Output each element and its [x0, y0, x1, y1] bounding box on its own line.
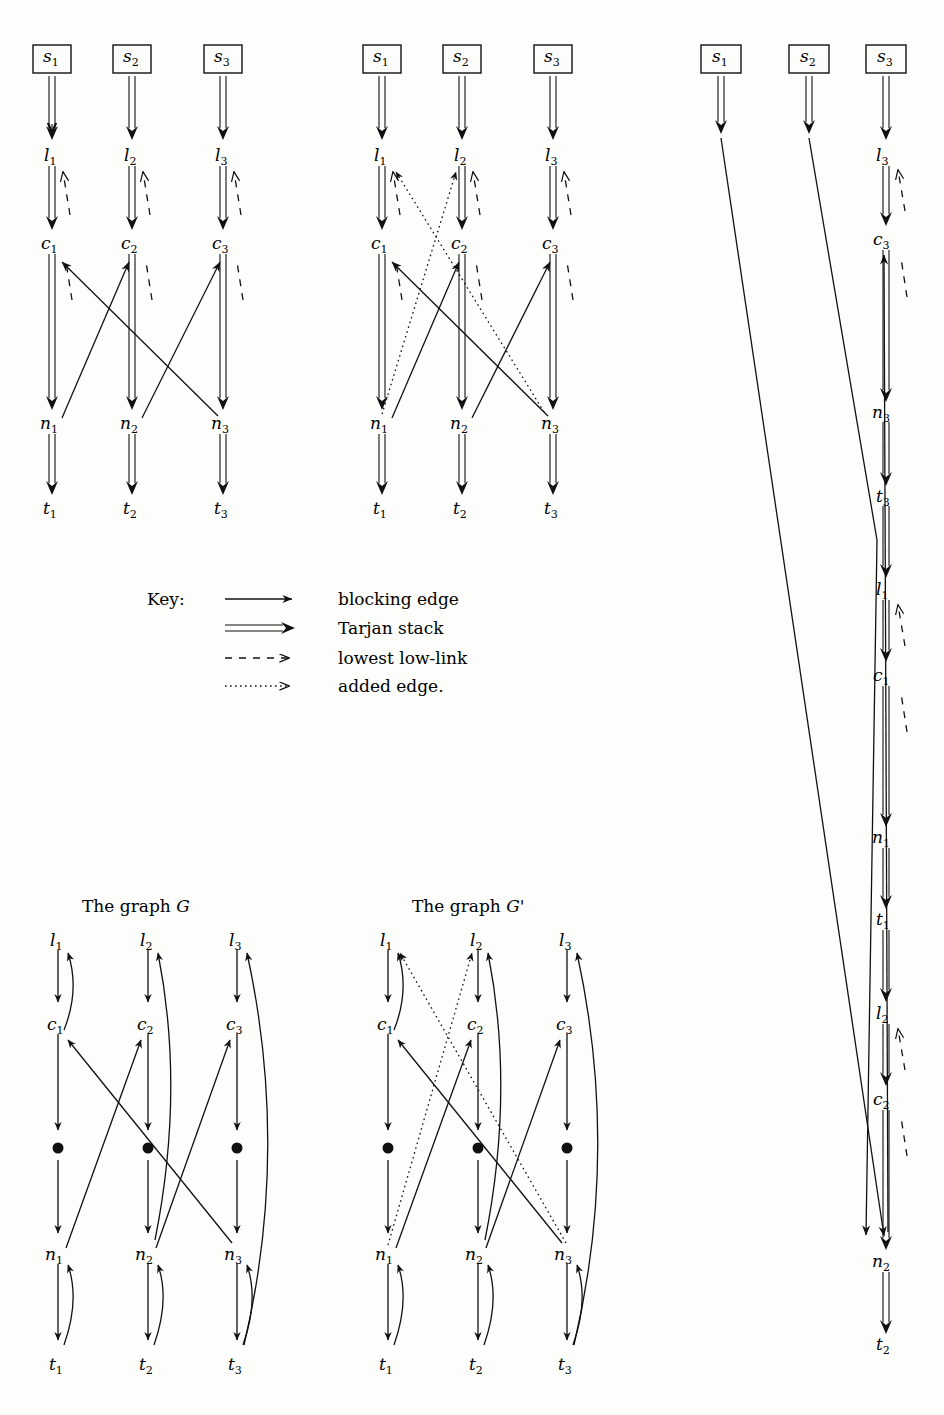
figure-canvas: s1 s2 s3 l1 l2 l3 c1 c2 c3 n1 n2 n3 t1 t… — [0, 0, 944, 1415]
node-label-l1: l1 — [380, 930, 392, 953]
node-label-n1: n1 — [375, 1244, 393, 1267]
node-label-c2: c2 — [451, 233, 468, 256]
node-label-l2: l2 — [124, 145, 136, 168]
inner-node-dot-1 — [383, 1143, 394, 1154]
panel-title-graph-G-prime: The graph G' — [412, 896, 524, 916]
node-label-n3: n3 — [541, 413, 559, 436]
node-label-c1: c1 — [371, 233, 388, 256]
node-label-l3: l3 — [559, 930, 571, 953]
node-label-t3: t3 — [544, 498, 558, 521]
node-label-t3: t3 — [228, 1354, 242, 1377]
node-label-n2: n2 — [465, 1244, 483, 1267]
key-text-blocking-edge: blocking edge — [338, 589, 459, 609]
node-label-l1: l1 — [50, 930, 62, 953]
panel-top-middle: s1 s2 s3 l1 l2 l3 c1 c2 c3 n1 n2 n3 t1 t… — [363, 45, 573, 521]
node-label-t3: t3 — [876, 486, 890, 509]
long-blocking-edges — [721, 138, 888, 1236]
node-label-t1: t1 — [379, 1354, 393, 1377]
node-label-t1: t1 — [876, 909, 890, 932]
inner-node-dot-2 — [143, 1143, 154, 1154]
node-label-c3: c3 — [226, 1014, 243, 1037]
node-label-s2: s2 — [800, 46, 816, 69]
node-label-l1: l1 — [374, 145, 386, 168]
key-swatch-tarjan-stack — [225, 622, 295, 634]
panel-right-column: s1 s2 s3 — [701, 45, 907, 1357]
key-label: Key: — [147, 589, 185, 609]
node-label-n3: n3 — [211, 413, 229, 436]
added-edges — [382, 172, 544, 414]
inner-node-dot-3 — [232, 1143, 243, 1154]
node-label-n3: n3 — [872, 402, 890, 425]
panel-title-graph-G: The graph G — [82, 896, 190, 916]
node-label-t2: t2 — [453, 498, 467, 521]
node-label-s1: s1 — [43, 46, 59, 69]
node-label-t2: t2 — [876, 1334, 890, 1357]
node-label-t2: t2 — [469, 1354, 483, 1377]
node-label-s1: s1 — [712, 46, 728, 69]
node-label-s3: s3 — [214, 46, 230, 69]
key-legend: Key: blocking edge Tarjan stack lowest l… — [147, 589, 468, 696]
node-label-c3: c3 — [542, 233, 559, 256]
node-label-l3: l3 — [876, 145, 888, 168]
node-label-c1: c1 — [47, 1014, 64, 1037]
node-label-n2: n2 — [120, 413, 138, 436]
node-label-s3: s3 — [877, 46, 893, 69]
node-label-l2: l2 — [140, 930, 152, 953]
node-label-c3: c3 — [212, 233, 229, 256]
panel-graph-G-prime: The graph G' — [375, 896, 598, 1377]
node-label-s2: s2 — [123, 46, 139, 69]
node-label-s3: s3 — [544, 46, 560, 69]
node-label-c2: c2 — [137, 1014, 154, 1037]
node-label-t3: t3 — [214, 498, 228, 521]
node-label-t2: t2 — [139, 1354, 153, 1377]
node-label-n1: n1 — [370, 413, 388, 436]
blocking-edges — [62, 262, 220, 418]
node-label-t1: t1 — [49, 1354, 63, 1377]
node-label-t1: t1 — [43, 498, 57, 521]
node-label-t3: t3 — [558, 1354, 572, 1377]
chain-lowlink-edges — [898, 170, 907, 1156]
node-label-l3: l3 — [545, 145, 557, 168]
inner-node-dot-3 — [562, 1143, 573, 1154]
node-label-n2: n2 — [135, 1244, 153, 1267]
panel-top-left: s1 s2 s3 l1 l2 l3 c1 c2 c3 n1 n2 n3 t1 t… — [33, 45, 243, 521]
node-label-c1: c1 — [873, 665, 890, 688]
node-label-s2: s2 — [453, 46, 469, 69]
node-label-c3: c3 — [873, 229, 890, 252]
key-text-tarjan-stack: Tarjan stack — [338, 618, 444, 638]
node-label-c3: c3 — [556, 1014, 573, 1037]
inner-node-dot-2 — [473, 1143, 484, 1154]
node-label-n1: n1 — [872, 827, 890, 850]
inner-node-dot-1 — [53, 1143, 64, 1154]
node-label-c2: c2 — [467, 1014, 484, 1037]
node-label-c2: c2 — [121, 233, 138, 256]
node-label-l2: l2 — [454, 145, 466, 168]
node-label-n2: n2 — [872, 1251, 890, 1274]
node-label-l3: l3 — [215, 145, 227, 168]
node-label-l1: l1 — [44, 145, 56, 168]
node-label-n1: n1 — [40, 413, 58, 436]
node-label-n1: n1 — [45, 1244, 63, 1267]
panel-graph-G: The graph G — [45, 896, 268, 1377]
key-text-lowest-low-link: lowest low-link — [338, 648, 468, 668]
blocking-edges — [392, 262, 550, 418]
node-label-n3: n3 — [554, 1244, 572, 1267]
node-label-t2: t2 — [123, 498, 137, 521]
node-label-l1: l1 — [876, 579, 888, 602]
node-label-c1: c1 — [41, 233, 58, 256]
key-text-added-edge: added edge. — [338, 676, 444, 696]
node-label-n2: n2 — [450, 413, 468, 436]
node-label-s1: s1 — [373, 46, 389, 69]
node-label-l3: l3 — [229, 930, 241, 953]
node-label-t1: t1 — [373, 498, 387, 521]
node-label-l2: l2 — [470, 930, 482, 953]
node-label-n3: n3 — [224, 1244, 242, 1267]
node-label-c1: c1 — [377, 1014, 394, 1037]
stack-edges-sources — [715, 76, 892, 140]
